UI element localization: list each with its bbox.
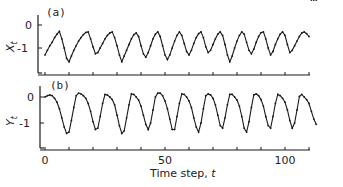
data-point (90, 38, 92, 40)
data-point (275, 103, 277, 105)
data-point (95, 53, 97, 55)
data-point (241, 116, 243, 118)
data-point (289, 52, 291, 54)
data-point (191, 107, 193, 109)
data-point (255, 41, 257, 43)
data-point (102, 43, 104, 45)
data-point (164, 54, 166, 56)
data-point (66, 133, 68, 135)
data-point (92, 46, 94, 48)
panel-a: (a) 0 -1 Xt (4, 0, 317, 75)
data-point (258, 95, 260, 97)
data-point (75, 45, 77, 47)
data-point (59, 108, 61, 110)
data-point (66, 58, 68, 60)
data-point (263, 105, 265, 107)
data-point (123, 55, 125, 57)
data-point (270, 54, 272, 56)
data-point (287, 44, 289, 46)
data-point (61, 38, 63, 40)
data-point (171, 129, 173, 131)
data-point (287, 109, 289, 111)
data-point (51, 95, 53, 97)
data-point (224, 44, 226, 46)
chart-figure: (a) 0 -1 Xt (b) 0 -1 Yt 0 50 100 Time st… (0, 0, 343, 187)
svg-text:Xt: Xt (4, 40, 19, 53)
data-point (243, 33, 245, 35)
data-point (143, 114, 145, 116)
data-point (205, 95, 207, 97)
data-point (253, 48, 255, 50)
data-point (205, 46, 207, 48)
data-point (251, 107, 253, 109)
data-point (212, 97, 214, 99)
data-point (200, 31, 202, 33)
data-point (243, 127, 245, 129)
data-point (119, 125, 121, 127)
data-point (68, 61, 70, 63)
data-point (135, 96, 137, 98)
data-point (239, 35, 241, 37)
data-point (83, 95, 85, 97)
data-point (299, 36, 301, 38)
data-point (284, 101, 286, 103)
data-point (183, 94, 185, 96)
data-point (73, 49, 75, 51)
ylabel-b-sub: t (10, 115, 19, 119)
data-point (236, 40, 238, 42)
data-point (169, 118, 171, 120)
data-point (78, 92, 80, 94)
data-point (265, 38, 267, 40)
data-point (186, 96, 188, 98)
data-point (301, 94, 303, 96)
data-point (85, 97, 87, 99)
data-point (111, 31, 113, 33)
data-point (171, 47, 173, 49)
data-point (123, 130, 125, 132)
data-point (303, 96, 305, 98)
data-point (193, 43, 195, 45)
xtick-label-0: 0 (42, 154, 49, 167)
data-point (128, 44, 130, 46)
data-point (181, 35, 183, 37)
data-point (279, 33, 281, 35)
data-point (217, 114, 219, 116)
data-point (140, 105, 142, 107)
data-point (111, 99, 113, 101)
data-point (71, 55, 73, 57)
data-point (167, 108, 169, 110)
data-point (150, 122, 152, 124)
xlabel-main: Time step, (149, 167, 211, 180)
data-point (49, 45, 51, 47)
data-point (282, 97, 284, 99)
data-point (267, 125, 269, 127)
data-point (260, 32, 262, 34)
data-point (169, 54, 171, 56)
data-point (301, 32, 303, 34)
data-point (267, 47, 269, 49)
data-point (131, 38, 133, 40)
data-point (56, 101, 58, 103)
data-point (217, 33, 219, 35)
data-point (162, 95, 164, 97)
data-point (92, 121, 94, 123)
data-point (49, 94, 51, 96)
data-point (147, 52, 149, 54)
data-point (44, 96, 46, 98)
data-point (207, 52, 209, 54)
xtick-label-50: 50 (158, 154, 172, 167)
data-point (263, 31, 265, 33)
data-point (234, 47, 236, 49)
data-point (95, 129, 97, 131)
data-point (306, 33, 308, 35)
data-point (279, 95, 281, 97)
data-point (299, 96, 301, 98)
data-point (116, 114, 118, 116)
data-point (313, 118, 315, 120)
data-point (195, 126, 197, 128)
data-point (104, 38, 106, 40)
data-point (212, 44, 214, 46)
data-point (229, 61, 231, 63)
data-point (246, 131, 248, 133)
data-point (135, 32, 137, 34)
